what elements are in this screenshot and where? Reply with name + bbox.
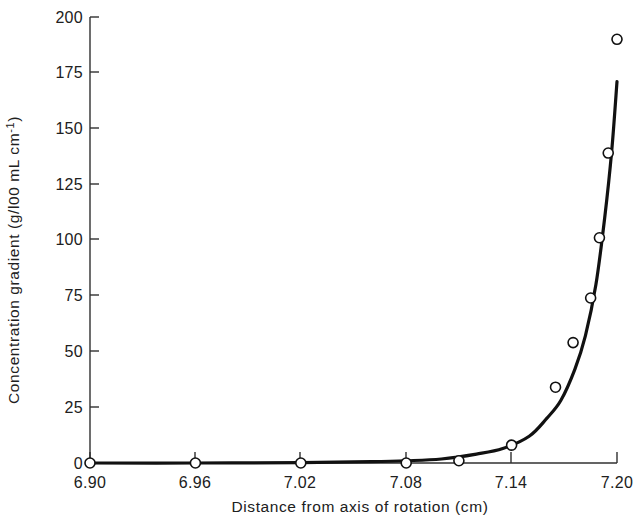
data-point bbox=[612, 34, 622, 44]
concentration-gradient-plot: Concentration gradient (g/l00 mL cm-1) 0… bbox=[0, 0, 643, 525]
data-point bbox=[190, 458, 200, 468]
x-tick-label-696: 6.96 bbox=[179, 474, 211, 491]
data-point bbox=[594, 233, 604, 243]
y-tick-label-200: 200 bbox=[55, 9, 83, 26]
y-axis-label-suffix: ) bbox=[5, 116, 22, 122]
y-tick-label-25: 25 bbox=[65, 399, 83, 416]
data-point bbox=[586, 293, 596, 303]
y-tick-label-50: 50 bbox=[65, 343, 83, 360]
x-tick-label-702: 7.02 bbox=[284, 474, 316, 491]
data-point bbox=[551, 382, 561, 392]
y-axis-label: Concentration gradient (g/l00 mL cm-1) bbox=[4, 116, 22, 404]
data-point bbox=[401, 458, 411, 468]
x-tick-label-690: 6.90 bbox=[74, 474, 106, 491]
data-point bbox=[296, 458, 306, 468]
chart-figure: Concentration gradient (g/l00 mL cm-1) 0… bbox=[0, 0, 643, 525]
x-tick-label-720: 7.20 bbox=[601, 474, 633, 491]
data-point bbox=[507, 440, 517, 450]
x-tick-label-714: 7.14 bbox=[495, 474, 527, 491]
y-tick-label-125: 125 bbox=[55, 176, 83, 193]
data-point bbox=[568, 338, 578, 348]
y-tick-label-75: 75 bbox=[65, 287, 83, 304]
x-axis-tick-labels: 6.90 6.96 7.02 7.08 7.14 7.20 bbox=[74, 474, 633, 491]
y-tick-label-175: 175 bbox=[55, 64, 83, 81]
y-axis-ticks bbox=[90, 17, 99, 463]
data-point bbox=[454, 456, 464, 466]
x-axis-label: Distance from axis of rotation (cm) bbox=[231, 498, 488, 515]
y-tick-label-100: 100 bbox=[55, 231, 83, 248]
x-tick-label-708: 7.08 bbox=[390, 474, 422, 491]
y-tick-label-0: 0 bbox=[74, 455, 83, 472]
data-point bbox=[603, 148, 613, 158]
y-axis-label-superscript: -1 bbox=[4, 122, 16, 133]
y-axis-label-text: Concentration gradient (g/l00 mL cm bbox=[5, 133, 22, 404]
y-tick-label-150: 150 bbox=[55, 120, 83, 137]
data-point bbox=[85, 458, 95, 468]
fitted-curve bbox=[90, 82, 617, 463]
y-axis-tick-labels: 0 25 50 75 100 125 150 175 200 bbox=[55, 9, 83, 472]
data-point-markers bbox=[85, 34, 622, 468]
